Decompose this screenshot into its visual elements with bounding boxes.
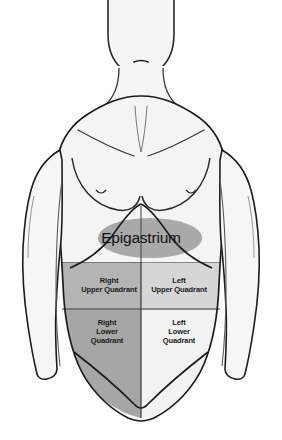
head-chin-group [108, 0, 174, 76]
abdominal-quadrants-diagram: Right Upper Quadrant Left Upper Quadrant… [0, 0, 282, 440]
right-upper-quadrant-region [55, 255, 141, 310]
chin-outline [108, 0, 174, 76]
torso-illustration [0, 0, 282, 440]
quadrant-shading-group [55, 255, 231, 430]
